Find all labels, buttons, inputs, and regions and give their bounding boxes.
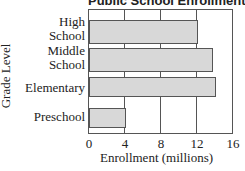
x-tick: 16 — [227, 136, 240, 152]
category-label-high-school: HighSchool — [49, 15, 85, 43]
y-axis-label: Grade Level — [0, 44, 14, 109]
chart-title: Public School Enrollment — [88, 0, 245, 8]
label-line: School — [49, 28, 85, 43]
plot-area — [88, 9, 233, 134]
label-line: High — [59, 14, 85, 29]
bar-elementary — [89, 77, 216, 97]
bar-middle-school — [89, 48, 213, 72]
bar-preschool — [89, 108, 126, 128]
x-axis-label: Enrollment (millions) — [100, 150, 213, 166]
bar-high-school — [89, 20, 198, 44]
x-tick: 0 — [86, 136, 93, 152]
label-line: School — [49, 57, 85, 72]
category-label-middle-school: MiddleSchool — [47, 44, 85, 72]
label-line: Middle — [47, 43, 85, 58]
category-label-elementary: Elementary — [25, 81, 85, 95]
category-label-preschool: Preschool — [34, 110, 85, 124]
